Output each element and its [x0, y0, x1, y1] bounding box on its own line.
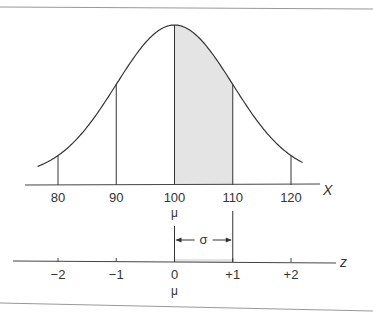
z-tick-label: −1	[109, 267, 124, 282]
arrowhead-left	[176, 238, 182, 243]
z-tick-label: −2	[51, 267, 66, 282]
arrowhead-right	[226, 238, 232, 243]
x-tick-label: 110	[222, 190, 243, 205]
sigma-label: σ	[200, 232, 208, 247]
z-axis-label: z	[339, 254, 347, 270]
z-tick-label: 0	[171, 267, 178, 282]
x-tick-label: 100	[164, 190, 186, 205]
shaded-region	[175, 25, 233, 185]
x-axis-label: X	[322, 182, 333, 198]
mean-symbol-x: μ	[171, 206, 178, 220]
x-tick-label: 90	[109, 190, 123, 205]
normal-distribution-figure: 8090100110120 X μ −2−10+1+2 z μ σ	[0, 0, 373, 320]
z-tick-label: +2	[284, 267, 299, 282]
normal-curve	[38, 25, 303, 166]
bottom-border	[0, 303, 373, 311]
mean-symbol-z: μ	[171, 284, 178, 298]
top-border	[0, 7, 373, 9]
z-shaded-strip	[175, 259, 233, 262]
z-tick-label: +1	[225, 267, 240, 282]
sigma-arrow: σ	[176, 232, 232, 247]
x-axis	[25, 184, 320, 185]
x-tick-label: 120	[280, 190, 302, 205]
x-tick-label: 80	[51, 190, 65, 205]
